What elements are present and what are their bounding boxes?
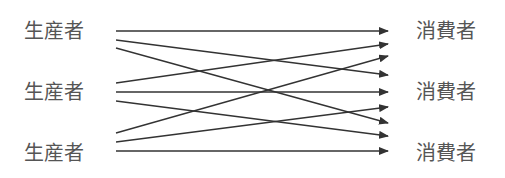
edge-p2-c3 — [116, 101, 388, 136]
edge-p3-c2 — [116, 107, 388, 142]
edge-p2-c1 — [116, 44, 388, 83]
edge-p1-c2 — [116, 40, 388, 75]
producer-consumer-links — [0, 0, 505, 178]
edge-p3-c1 — [116, 56, 388, 133]
